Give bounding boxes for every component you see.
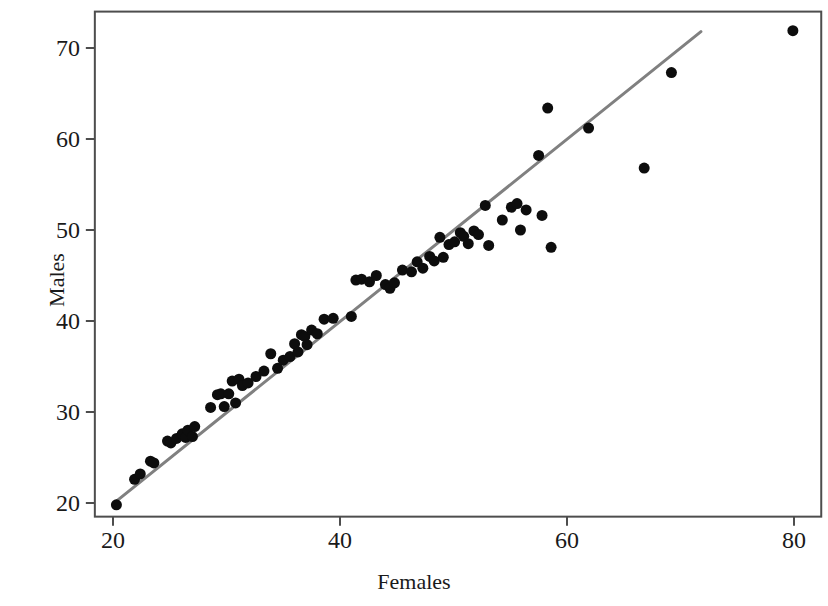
scatter-point xyxy=(346,311,357,322)
x-axis-title: Females xyxy=(0,571,828,593)
scatter-point xyxy=(512,198,523,209)
scatter-point xyxy=(463,238,474,249)
scatter-point xyxy=(389,277,400,288)
scatter-point xyxy=(497,214,508,225)
scatter-point xyxy=(480,200,491,211)
y-tick-label-20: 20 xyxy=(30,491,80,515)
scatter-point xyxy=(312,328,323,339)
scatter-point xyxy=(148,457,159,468)
scatter-point xyxy=(639,163,650,174)
scatter-point xyxy=(258,366,269,377)
plot-canvas xyxy=(0,0,828,606)
scatter-plot-figure: 20 40 60 80 20 30 40 50 60 70 Females Ma… xyxy=(0,0,828,606)
scatter-point xyxy=(787,25,798,36)
scatter-point xyxy=(406,266,417,277)
scatter-point xyxy=(223,388,234,399)
scatter-point xyxy=(521,204,532,215)
scatter-point xyxy=(371,270,382,281)
scatter-point xyxy=(205,402,216,413)
y-tick-label-30: 30 xyxy=(30,400,80,424)
x-tick-label-20: 20 xyxy=(101,528,125,552)
scatter-point xyxy=(473,229,484,240)
scatter-point xyxy=(533,150,544,161)
scatter-point xyxy=(302,339,313,350)
y-tick-label-60: 60 xyxy=(30,127,80,151)
scatter-point xyxy=(293,346,304,357)
scatter-point xyxy=(187,431,198,442)
y-axis-title: Males xyxy=(46,220,68,340)
x-tick-label-80: 80 xyxy=(782,528,806,552)
y-tick-label-70: 70 xyxy=(30,36,80,60)
scatter-point xyxy=(546,242,557,253)
x-tick-label-40: 40 xyxy=(328,528,352,552)
scatter-point xyxy=(537,210,548,221)
scatter-point xyxy=(219,401,230,412)
scatter-point xyxy=(397,265,408,276)
scatter-point xyxy=(265,348,276,359)
scatter-point xyxy=(438,252,449,263)
scatter-point xyxy=(189,421,200,432)
scatter-point xyxy=(434,232,445,243)
scatter-point xyxy=(135,468,146,479)
scatter-point xyxy=(515,225,526,236)
scatter-point xyxy=(230,397,241,408)
scatter-point xyxy=(111,499,122,510)
scatter-point xyxy=(483,240,494,251)
scatter-point xyxy=(328,313,339,324)
plot-border xyxy=(95,12,821,517)
data-points xyxy=(111,25,798,510)
x-tick-label-60: 60 xyxy=(555,528,579,552)
axis-tickmarks xyxy=(86,48,794,526)
scatter-point xyxy=(583,123,594,134)
scatter-point xyxy=(417,263,428,274)
plot-frame xyxy=(95,12,821,517)
scatter-point xyxy=(666,67,677,78)
scatter-point xyxy=(542,103,553,114)
